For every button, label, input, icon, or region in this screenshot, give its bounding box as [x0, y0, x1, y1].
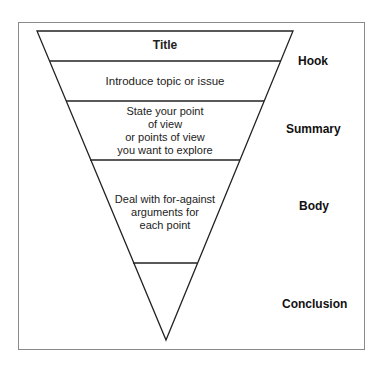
- section-state: State your point of view or points of vi…: [95, 105, 235, 157]
- deal-line-1: Deal with for-against: [100, 193, 230, 206]
- section-introduce: Introduce topic or issue: [85, 75, 245, 88]
- label-body: Body: [299, 199, 329, 213]
- state-line-4: you want to explore: [95, 144, 235, 157]
- label-summary: Summary: [286, 122, 341, 136]
- deal-line-2: arguments for: [100, 206, 230, 219]
- state-line-2: of view: [95, 118, 235, 131]
- state-line-1: State your point: [95, 105, 235, 118]
- section-deal: Deal with for-against arguments for each…: [100, 193, 230, 232]
- state-line-3: or points of view: [95, 131, 235, 144]
- label-hook: Hook: [298, 54, 328, 68]
- section-title: Title: [115, 39, 215, 52]
- deal-line-3: each point: [100, 219, 230, 232]
- label-conclusion: Conclusion: [282, 297, 347, 311]
